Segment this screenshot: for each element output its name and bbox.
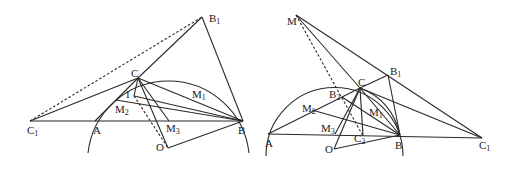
label-m2: M2: [115, 103, 129, 117]
line-a-c1: [268, 134, 482, 138]
right-labels: M B1 C B2 M2 M1 M3 A C2 B O C1: [265, 15, 490, 155]
right-figure: [266, 15, 482, 156]
label-b: B: [395, 139, 402, 151]
line-m-c1: [296, 15, 482, 138]
label-b1: B1: [390, 65, 401, 79]
label-c1: C1: [27, 124, 38, 138]
label-m3: M3: [321, 122, 335, 136]
label-b2: B2: [329, 88, 340, 102]
line-b1-b: [202, 17, 243, 121]
label-m3: M3: [166, 122, 180, 136]
label-b1: B1: [209, 12, 220, 26]
label-o: O: [156, 141, 164, 153]
label-m2: M2: [302, 102, 316, 116]
label-m1: M1: [369, 106, 383, 120]
label-c: C: [358, 76, 365, 88]
label-a: A: [93, 124, 101, 136]
line-b1-b: [388, 75, 400, 135]
label-o: O: [325, 143, 333, 155]
line-c-b1: [138, 17, 202, 78]
geometry-diagram: C1 A B C B1 I M1 M2 M3 O M B1 C B2 M2 M1…: [0, 0, 514, 170]
label-c2: C2: [354, 132, 365, 146]
label-c: C: [131, 67, 138, 79]
dashed-m-c2: [296, 15, 363, 136]
label-b: B: [238, 124, 245, 136]
line-c-c2: [360, 88, 363, 136]
label-c1: C1: [479, 139, 490, 153]
label-a: A: [265, 137, 273, 149]
diagram-svg: C1 A B C B1 I M1 M2 M3 O M B1 C B2 M2 M1…: [0, 0, 514, 170]
label-m1: M1: [192, 88, 206, 102]
label-i: I: [126, 88, 130, 100]
line-o-b: [334, 135, 400, 149]
label-m: M: [287, 15, 297, 27]
left-figure: [30, 17, 249, 153]
line-i-b: [134, 96, 243, 121]
